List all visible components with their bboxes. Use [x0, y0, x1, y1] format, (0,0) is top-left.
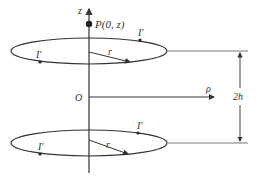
- bottom-current-marker-left: [38, 152, 41, 155]
- z-axis-label: z: [77, 5, 82, 16]
- rho-axis-label: ρ: [205, 83, 211, 94]
- top-radius-label: r: [108, 46, 112, 57]
- bottom-current-marker-right: [136, 131, 139, 134]
- top-current-marker-right: [138, 38, 141, 41]
- top-current-label-right: I': [137, 27, 144, 38]
- point-p-label: P(0, z): [94, 18, 125, 31]
- bottom-current-label-right: I': [136, 120, 143, 131]
- bottom-current-label-left: I': [37, 141, 44, 152]
- origin-label: O: [75, 92, 82, 103]
- bottom-radius-label: r: [106, 139, 110, 150]
- separation-label: 2h: [233, 91, 243, 102]
- top-current-label-left: I': [35, 49, 42, 60]
- coaxial-loops-diagram: z P(0, z) I' I' r ρ O I' I' r 2h: [0, 0, 257, 189]
- top-current-marker-left: [38, 60, 41, 63]
- point-p-marker: [86, 21, 92, 27]
